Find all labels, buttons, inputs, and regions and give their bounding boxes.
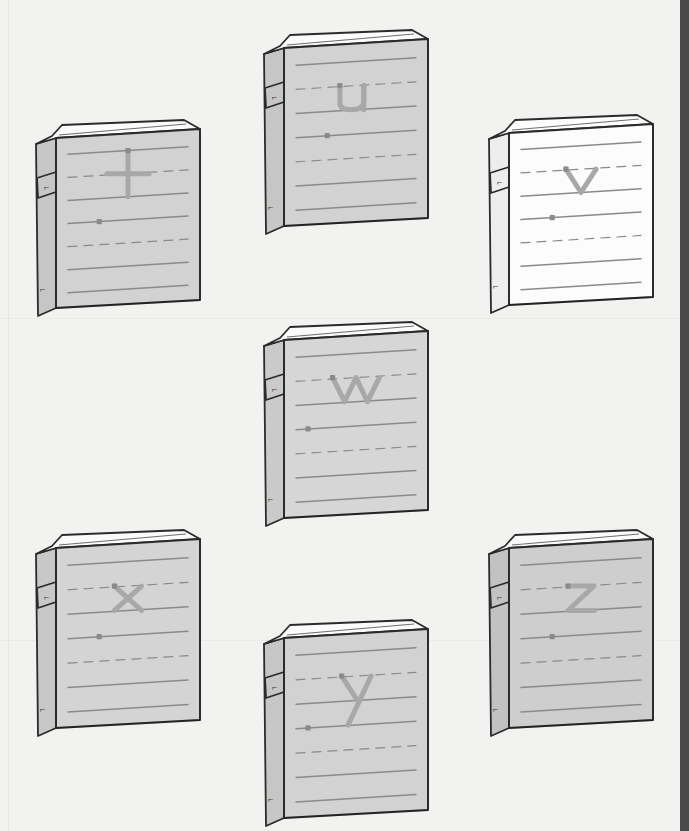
book-letter-label: t	[30, 322, 31, 323]
spine-corner-mark-icon: ⌐	[493, 704, 498, 714]
spine-corner-mark-icon: ⌐	[40, 284, 45, 294]
spine-corner-mark-icon: ⌐	[40, 704, 45, 714]
page-right-edge-strip	[680, 0, 689, 831]
spine-corner-mark-icon: ⌐	[268, 794, 273, 804]
spine-clasp-mark-icon: ⌐	[497, 177, 502, 187]
book-letter-label: v	[483, 319, 484, 320]
practice-row-start-dot	[305, 725, 310, 730]
book-spine	[264, 340, 284, 526]
practice-row-start-dot	[325, 133, 330, 138]
letter-start-dot	[337, 83, 342, 88]
spine-clasp-mark-icon: ⌐	[44, 592, 49, 602]
book-letter-label: w	[258, 532, 259, 533]
practice-row-start-dot	[550, 634, 555, 639]
book-letter-label: u	[258, 240, 259, 241]
book-v[interactable]: ⌐⌐v	[483, 113, 667, 319]
letter-start-dot	[339, 673, 344, 678]
spine-corner-mark-icon: ⌐	[268, 494, 273, 504]
book-z[interactable]: ⌐⌐z	[483, 528, 667, 742]
letter-start-dot	[112, 583, 117, 588]
book-front-cover[interactable]	[56, 539, 200, 728]
book-front-cover[interactable]	[509, 124, 653, 305]
letter-start-dot	[563, 167, 568, 172]
book-y[interactable]: ⌐⌐y	[258, 618, 442, 831]
spine-clasp-mark-icon: ⌐	[272, 384, 277, 394]
book-w[interactable]: ⌐⌐w	[258, 320, 442, 532]
practice-row-start-dot	[97, 634, 102, 639]
spine-clasp-mark-icon: ⌐	[497, 592, 502, 602]
letter-start-dot	[330, 375, 335, 380]
practice-row-start-dot	[97, 219, 102, 224]
spine-corner-mark-icon: ⌐	[268, 202, 273, 212]
book-front-cover[interactable]	[284, 331, 428, 518]
book-spine	[36, 138, 56, 316]
book-spine	[489, 548, 509, 736]
letter-start-dot	[565, 583, 570, 588]
book-letter-label: z	[483, 742, 484, 743]
book-front-cover[interactable]	[284, 629, 428, 818]
spine-clasp-mark-icon: ⌐	[272, 682, 277, 692]
book-letter-label: x	[30, 742, 31, 743]
letter-start-dot	[125, 148, 130, 153]
spine-clasp-mark-icon: ⌐	[272, 92, 277, 102]
practice-row-start-dot	[550, 215, 555, 220]
book-front-cover[interactable]	[509, 539, 653, 728]
book-spine	[264, 48, 284, 234]
worksheet-canvas: ⌐⌐t⌐⌐u⌐⌐v⌐⌐w⌐⌐x⌐⌐y⌐⌐z	[0, 0, 689, 831]
book-x[interactable]: ⌐⌐x	[30, 528, 214, 742]
book-spine	[36, 548, 56, 736]
book-t[interactable]: ⌐⌐t	[30, 118, 214, 322]
book-u[interactable]: ⌐⌐u	[258, 28, 442, 240]
paper-fold-left	[8, 0, 9, 831]
book-spine	[489, 133, 509, 313]
practice-row-start-dot	[305, 426, 310, 431]
book-front-cover[interactable]	[284, 39, 428, 226]
spine-clasp-mark-icon: ⌐	[44, 182, 49, 192]
spine-corner-mark-icon: ⌐	[493, 281, 498, 291]
book-spine	[264, 638, 284, 826]
